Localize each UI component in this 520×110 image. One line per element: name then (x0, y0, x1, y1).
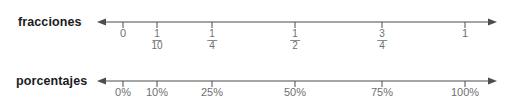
tick-label-porcentajes-4: 75% (371, 87, 393, 98)
left-arrowhead-icon (97, 77, 106, 84)
percent-value: 75% (371, 87, 393, 98)
percent-value: 25% (201, 87, 223, 98)
fraction-numerator: 1 (207, 29, 217, 41)
axes-lines (0, 0, 520, 110)
tick-label-fracciones-4: 34 (377, 28, 387, 51)
tick-label-porcentajes-2: 25% (201, 87, 223, 98)
percent-value: 0% (115, 87, 131, 98)
tick-label-fracciones-2: 14 (207, 28, 217, 51)
tick-label-fracciones-3: 12 (290, 28, 300, 51)
fraction-numerator: 1 (152, 29, 162, 41)
fraction-glyph: 110 (149, 29, 164, 51)
fraction-denominator: 4 (207, 41, 217, 52)
fraction-numerator: 3 (377, 29, 387, 41)
percent-value: 50% (284, 87, 306, 98)
percent-value: 10% (146, 87, 168, 98)
tick-label-fracciones-5: 1 (462, 28, 468, 39)
right-arrowhead-icon (488, 18, 497, 25)
tick-label-porcentajes-1: 10% (146, 87, 168, 98)
right-arrowhead-icon (488, 77, 497, 84)
tick-label-fracciones-1: 110 (149, 28, 164, 51)
whole-value: 1 (462, 28, 468, 39)
number-line-diagram: fracciones porcentajes 011014123410%10%2… (0, 0, 520, 110)
fraction-numerator: 1 (290, 29, 300, 41)
percent-value: 100% (451, 87, 479, 98)
tick-label-porcentajes-5: 100% (451, 87, 479, 98)
fraction-denominator: 2 (290, 41, 300, 52)
fraction-glyph: 12 (290, 29, 300, 51)
fraction-denominator: 4 (377, 41, 387, 52)
fraction-denominator: 10 (149, 41, 164, 52)
left-arrowhead-icon (97, 18, 106, 25)
fraction-glyph: 34 (377, 29, 387, 51)
whole-value: 0 (120, 28, 126, 39)
axis-fracciones (97, 18, 497, 28)
tick-label-porcentajes-0: 0% (115, 87, 131, 98)
tick-label-fracciones-0: 0 (120, 28, 126, 39)
fraction-glyph: 14 (207, 29, 217, 51)
tick-label-porcentajes-3: 50% (284, 87, 306, 98)
